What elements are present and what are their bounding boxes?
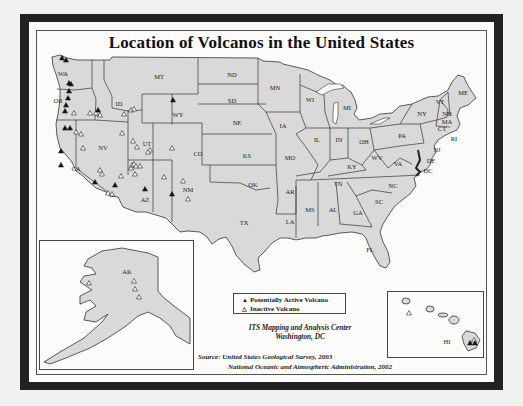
state-label-ia: IA <box>280 122 287 129</box>
state-label-nc: NC <box>388 182 397 189</box>
state-label-in: IN <box>336 136 343 143</box>
state-label-wy: WY <box>173 111 184 118</box>
state-label-ca: CA <box>71 165 80 172</box>
state-label-ma: MA <box>442 118 452 125</box>
state-label-sd: SD <box>228 97 236 104</box>
source-credit: Source: United States Geological Survey,… <box>198 353 392 372</box>
state-label-ks: KS <box>243 152 251 159</box>
state-label-il: IL <box>314 136 320 143</box>
state-label-nm: NM <box>183 186 193 193</box>
state-label-nh: NH <box>442 110 451 117</box>
state-label-az: AZ <box>141 196 150 203</box>
state-label-ok: OK <box>248 181 257 188</box>
state-label-mo: MO <box>285 154 295 161</box>
state-label-de: DE <box>427 157 436 164</box>
alaska-inset <box>39 240 194 370</box>
state-label-ny: NY <box>417 110 426 117</box>
state-label-ms: MS <box>305 206 314 213</box>
state-label-nj: NJ <box>433 146 440 153</box>
active-volcano-icon <box>59 163 64 168</box>
legend-inactive: △Inactive Volcano <box>242 305 345 314</box>
state-label-mi: MI <box>343 104 351 111</box>
state-label-co: CO <box>193 150 202 157</box>
state-label-nd: ND <box>227 71 236 78</box>
active-volcano-icon: ▲ <box>242 296 250 305</box>
state-label-ct: CT <box>438 125 446 132</box>
state-label-al: AL <box>329 206 338 213</box>
state-label-wv: WV <box>372 154 383 161</box>
state-label-fl: FL <box>366 246 374 253</box>
state-label-mt: MT <box>154 73 164 80</box>
state-label-la: LA <box>286 218 295 225</box>
state-label-me: ME <box>458 89 468 96</box>
state-label-oh: OH <box>359 138 368 145</box>
state-label-tn: TN <box>334 180 343 187</box>
state-label-wa: WA <box>58 70 68 77</box>
producer-credit: ITS Mapping and Analysis Center Washingt… <box>200 323 400 341</box>
state-label-ut: UT <box>143 140 152 147</box>
state-label-mn: MN <box>270 84 280 91</box>
state-label-vt: VT <box>436 98 445 105</box>
state-label-pa: PA <box>398 132 406 139</box>
state-label-ne: NE <box>233 119 242 126</box>
state-label-va: VA <box>394 160 403 167</box>
legend-active: ▲Potentially Active Volcano <box>242 296 345 305</box>
hawaii-inset <box>387 291 484 358</box>
state-label-nv: NV <box>98 144 107 151</box>
state-label-id: ID <box>116 100 123 107</box>
state-label-sc: SC <box>375 198 383 205</box>
state-label-ga: GA <box>353 209 362 216</box>
state-label-tx: TX <box>240 219 249 226</box>
state-label-wi: WI <box>306 96 314 103</box>
state-label-or: OR <box>53 97 62 104</box>
state-label-ky: KY <box>347 163 356 170</box>
state-label-ri: RI <box>451 135 458 142</box>
inactive-volcano-icon: △ <box>242 305 250 314</box>
state-label-dc: DC <box>423 167 432 174</box>
legend: ▲Potentially Active Volcano △Inactive Vo… <box>233 293 346 314</box>
state-label-ar: AR <box>285 188 294 195</box>
